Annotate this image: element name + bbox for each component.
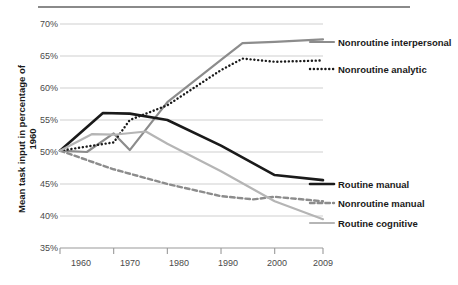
series-line-nonroutine-analytic bbox=[60, 59, 323, 151]
chart-container: Mean task input in percentage of 1960 70… bbox=[0, 0, 458, 285]
legend-markers bbox=[310, 42, 334, 223]
x-axis-ticks bbox=[60, 248, 323, 254]
plot-area bbox=[0, 0, 458, 285]
gridlines bbox=[60, 24, 323, 248]
series-lines bbox=[60, 39, 323, 219]
series-line-routine-manual bbox=[60, 113, 323, 180]
